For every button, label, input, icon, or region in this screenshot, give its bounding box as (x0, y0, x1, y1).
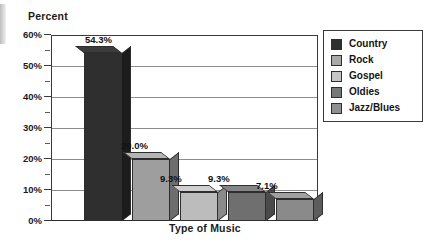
legend-swatch (331, 71, 342, 82)
y-axis-label: 0% (8, 215, 42, 226)
y-axis-minor-tick (45, 112, 50, 113)
y-axis-tick (44, 220, 51, 221)
bar-chart: Percent 60%50%40%30%20%10%0% 54.3%20.0%9… (0, 0, 432, 245)
legend-swatch (331, 103, 342, 114)
bar-top-face (123, 152, 170, 159)
y-axis-label: 20% (8, 153, 42, 164)
bar-front-face (228, 192, 266, 221)
y-axis-label: 50% (8, 60, 42, 71)
legend-label: Jazz/Blues (349, 103, 400, 113)
y-axis-label: 40% (8, 91, 42, 102)
bar-front-face (84, 53, 122, 221)
bar-front-face (276, 199, 314, 221)
legend-item: Rock (331, 52, 422, 68)
x-axis-title: Type of Music (130, 222, 280, 234)
bar-oldies (228, 192, 266, 221)
y-axis-minor-tick (45, 143, 50, 144)
bar-rock (132, 159, 170, 221)
bar-front-face (132, 159, 170, 221)
y-axis-label: 60% (8, 29, 42, 40)
y-axis-minor-tick (45, 174, 50, 175)
y-axis-tick (44, 65, 51, 66)
legend-label: Oldies (349, 87, 380, 97)
bar-side-face (122, 46, 131, 221)
bar-data-label: 54.3% (85, 34, 112, 45)
y-axis-tick (44, 96, 51, 97)
bar-side-face (314, 192, 323, 221)
legend-swatch (331, 87, 342, 98)
bar-front-face (180, 192, 218, 221)
legend-label: Gospel (349, 71, 383, 81)
bar-top-face (75, 46, 122, 53)
bar-top-face (267, 192, 314, 199)
y-axis-minor-tick (45, 81, 50, 82)
legend-item: Oldies (331, 84, 422, 100)
legend-item: Gospel (331, 68, 422, 84)
chart-legend: CountryRockGospelOldiesJazz/Blues (323, 30, 423, 122)
legend-swatch (331, 39, 342, 50)
bar-data-label: 20.0% (121, 140, 148, 151)
legend-label: Rock (349, 55, 373, 65)
y-axis-label: 10% (8, 184, 42, 195)
scan-edge-artifact (0, 4, 6, 44)
y-axis-tick (44, 189, 51, 190)
y-axis-minor-tick (45, 205, 50, 206)
y-axis-title: Percent (28, 10, 68, 22)
legend-item: Country (331, 36, 422, 52)
bar-data-label: 9.3% (208, 173, 230, 184)
bar-data-label: 7.1% (256, 180, 278, 191)
bar-jazz-blues (276, 199, 314, 221)
bar-country (84, 53, 122, 221)
y-axis-minor-tick (45, 50, 50, 51)
bar-data-label: 9.3% (160, 173, 182, 184)
y-axis-tick (44, 127, 51, 128)
legend-item: Jazz/Blues (331, 100, 422, 116)
y-axis-tick (44, 34, 51, 35)
y-axis-label: 30% (8, 122, 42, 133)
legend-label: Country (349, 39, 387, 49)
y-axis-tick (44, 158, 51, 159)
bar-gospel (180, 192, 218, 221)
legend-swatch (331, 55, 342, 66)
bar-top-face (171, 185, 218, 192)
